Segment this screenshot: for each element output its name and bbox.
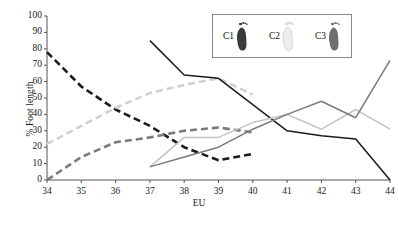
legend-label-c1: C1: [223, 31, 234, 41]
x-tick-label: 35: [77, 186, 87, 196]
footprint-icon: [236, 19, 249, 53]
legend-label-c2: C2: [269, 31, 280, 41]
y-tick-label: 0: [37, 175, 42, 185]
footprint-icon: [282, 19, 295, 53]
y-tick-label: 80: [33, 44, 43, 54]
footprint-icon: [328, 19, 341, 53]
y-tick-label: 100: [28, 11, 42, 21]
x-tick-label: 36: [111, 186, 121, 196]
y-tick-label: 20: [33, 142, 43, 152]
y-tick-label: 30: [33, 126, 43, 136]
x-tick-label: 44: [385, 186, 395, 196]
series-line: [150, 60, 390, 167]
series-line: [47, 78, 253, 144]
data-series: [47, 41, 390, 180]
x-tick-label: 38: [179, 186, 189, 196]
y-tick-label: 70: [33, 60, 43, 70]
legend-item-c2: C2: [269, 19, 295, 53]
x-tick-label: 34: [42, 186, 52, 196]
y-tick-label: 60: [33, 77, 43, 87]
x-axis-label: EU: [0, 198, 398, 208]
legend: C1 C2: [212, 14, 352, 58]
y-tick-label: 50: [33, 93, 43, 103]
x-tick-label: 41: [282, 186, 292, 196]
series-line: [47, 52, 253, 160]
foot-length-chart: % Foot length 0102030405060708090100 343…: [0, 0, 398, 232]
legend-item-c3: C3: [315, 19, 341, 53]
legend-label-c3: C3: [315, 31, 326, 41]
x-tick-label: 42: [317, 186, 327, 196]
x-tick-label: 37: [145, 186, 155, 196]
y-tick-label: 40: [33, 110, 43, 120]
x-tick-label: 39: [214, 186, 224, 196]
legend-item-c1: C1: [223, 19, 249, 53]
x-tick-label: 43: [351, 186, 361, 196]
x-tick-label: 40: [248, 186, 258, 196]
y-tick-label: 10: [33, 159, 43, 169]
y-tick-label: 90: [33, 28, 43, 38]
